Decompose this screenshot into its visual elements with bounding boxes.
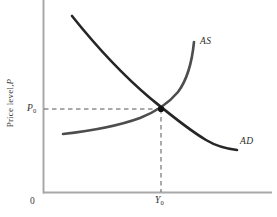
- y-axis-title-plain: Price level,: [5, 84, 15, 127]
- y-tick-label-p0: P0: [27, 103, 36, 113]
- x-tick-label-y0-sub: 0: [161, 199, 164, 206]
- y-axis-title-symbol: P: [5, 79, 15, 85]
- equilibrium-point: [158, 106, 164, 112]
- ad-as-chart: Price level,P P0 Y0 0 AS AD: [0, 0, 277, 217]
- origin-label: 0: [30, 196, 35, 206]
- x-tick-label-y0: Y0: [155, 195, 164, 205]
- as-curve: [63, 42, 194, 134]
- y-tick-label-p0-text: P: [27, 103, 33, 113]
- y-tick-label-p0-sub: 0: [33, 107, 36, 114]
- chart-plot-area: [0, 0, 277, 217]
- as-curve-label: AS: [200, 36, 211, 46]
- ad-curve-label: AD: [240, 136, 253, 146]
- y-axis-title: Price level,P: [5, 67, 15, 139]
- x-tick-label-y0-text: Y: [155, 195, 160, 205]
